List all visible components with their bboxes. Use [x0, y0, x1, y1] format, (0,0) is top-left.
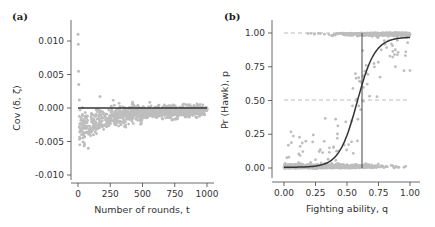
data-point [96, 124, 99, 127]
data-point [146, 116, 149, 119]
data-point [336, 133, 339, 136]
data-point [379, 76, 382, 79]
panel-b-y-ticks: 1.000.750.500.250.00 [245, 28, 272, 173]
data-point [327, 158, 330, 161]
data-point [107, 109, 110, 112]
data-point [385, 46, 388, 49]
data-point [92, 133, 95, 136]
data-point [121, 111, 124, 114]
data-point [394, 65, 397, 68]
data-point [77, 43, 80, 46]
data-point [400, 33, 403, 36]
data-point [329, 164, 332, 167]
data-point [290, 141, 293, 144]
data-point [328, 33, 331, 36]
data-point [176, 116, 179, 119]
data-point [348, 167, 351, 170]
data-point [366, 83, 369, 86]
data-point [377, 34, 380, 37]
data-point [356, 140, 359, 143]
data-point [127, 123, 130, 126]
svg-text:750: 750 [166, 189, 183, 199]
data-point [77, 70, 80, 73]
data-point [344, 167, 347, 170]
data-point [409, 69, 412, 72]
data-point [297, 153, 300, 156]
data-point [171, 119, 174, 122]
data-point [365, 166, 368, 169]
data-point [102, 128, 105, 131]
data-point [403, 166, 406, 169]
data-point [396, 53, 399, 56]
data-point [83, 142, 86, 145]
data-point [181, 114, 184, 117]
data-point [79, 129, 82, 132]
data-point [92, 125, 95, 128]
data-point [391, 50, 394, 53]
data-point [205, 109, 208, 112]
data-point [86, 125, 89, 128]
data-point [157, 115, 160, 118]
data-point [404, 54, 407, 57]
data-point [80, 122, 83, 125]
data-point [101, 119, 104, 122]
data-point [328, 151, 331, 154]
data-point [172, 105, 175, 108]
data-point [110, 105, 113, 108]
data-point [368, 95, 371, 98]
data-point [153, 113, 156, 116]
data-point [336, 125, 339, 128]
svg-text:0.75: 0.75 [245, 62, 265, 72]
data-point [136, 110, 139, 113]
data-point [78, 138, 81, 141]
svg-text:-0.010: -0.010 [35, 170, 64, 180]
data-point [350, 140, 353, 143]
data-point [352, 87, 355, 90]
data-point [83, 115, 86, 118]
data-point [95, 122, 98, 125]
data-point [77, 33, 80, 36]
data-point [182, 103, 185, 106]
data-point [375, 165, 378, 168]
data-point [197, 104, 200, 107]
data-point [83, 145, 86, 148]
panel-b-x-label: Fighting ability, q [306, 203, 388, 214]
svg-text:1000: 1000 [196, 189, 219, 199]
data-point [193, 110, 196, 113]
panel-a-y-label: Cov (δ, ζ) [11, 85, 22, 131]
data-point [113, 104, 116, 107]
svg-text:0.000: 0.000 [38, 103, 64, 113]
data-point [365, 64, 368, 67]
data-point [355, 165, 358, 168]
data-point [403, 33, 406, 36]
data-point [389, 55, 392, 58]
data-point [344, 120, 347, 123]
data-point [312, 133, 315, 136]
data-point [125, 114, 128, 117]
data-point [140, 112, 143, 115]
data-point [122, 118, 125, 121]
data-point [337, 165, 340, 168]
data-point [78, 98, 81, 101]
data-point [172, 114, 175, 117]
data-point [392, 32, 395, 35]
data-point [119, 121, 122, 124]
data-point [100, 110, 103, 113]
data-point [358, 80, 361, 83]
data-point [355, 77, 358, 80]
data-point [381, 34, 384, 37]
data-point [132, 110, 135, 113]
data-point [397, 166, 400, 169]
panel-a-y-ticks: 0.0100.0050.000-0.005-0.010 [35, 36, 71, 180]
data-point [101, 117, 104, 120]
data-point [393, 53, 396, 56]
data-point [286, 156, 289, 159]
data-point [359, 164, 362, 167]
data-point [143, 109, 146, 112]
panel-b-label: (b) [224, 11, 240, 22]
svg-text:1.00: 1.00 [400, 188, 420, 198]
data-point [88, 128, 91, 131]
data-point [386, 165, 389, 168]
panel-a: (a) 0.0100.0050.000-0.005-0.010 02505007… [11, 11, 219, 215]
data-point [156, 108, 159, 111]
